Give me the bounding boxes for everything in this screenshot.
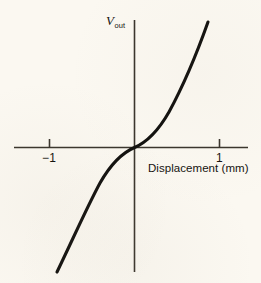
x-tick-label-negative-one: −1 xyxy=(42,152,56,164)
x-axis-label: Displacement (mm) xyxy=(148,163,249,175)
plot-canvas xyxy=(0,0,261,283)
y-axis-symbol: V xyxy=(106,13,114,28)
y-axis-subscript: out xyxy=(115,21,126,30)
x-tick-label-positive-one: 1 xyxy=(216,152,223,164)
figure-container: Vout Displacement (mm) −1 1 xyxy=(0,0,261,283)
y-axis-label: Vout xyxy=(106,14,125,27)
